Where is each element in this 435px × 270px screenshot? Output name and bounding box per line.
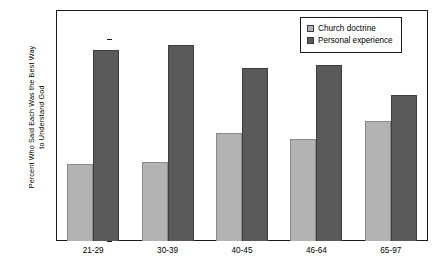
x-axis-tick-label: 65-97: [361, 246, 421, 255]
legend-swatch-icon: [307, 37, 314, 44]
legend-item-church-doctrine: Church doctrine: [307, 24, 393, 33]
y-axis-title: Percent Who Said Each Was the Best Way t…: [27, 2, 47, 232]
chart-legend: Church doctrine Personal experience: [300, 17, 402, 53]
x-axis-tick-label: 30-39: [138, 246, 198, 255]
x-axis-tick-label: 40-45: [212, 246, 272, 255]
legend-label: Church doctrine: [318, 24, 376, 33]
bar: [142, 162, 168, 241]
bar-group: [130, 10, 204, 241]
bar: [168, 45, 194, 241]
bar: [365, 121, 391, 241]
bar: [290, 139, 316, 242]
bar: [216, 133, 242, 241]
bar: [67, 164, 93, 241]
y-axis-tick-mark: [107, 241, 112, 242]
bar: [93, 50, 119, 241]
bar-chart: Percent Who Said Each Was the Best Way t…: [0, 0, 435, 270]
legend-label: Personal experience: [318, 36, 393, 45]
x-axis-tick-label: 46-64: [286, 246, 346, 255]
bar: [316, 65, 342, 241]
bar: [391, 95, 417, 241]
x-axis-tick-label: 21-29: [63, 246, 123, 255]
bar-group: [56, 10, 130, 241]
bar: [242, 68, 268, 241]
legend-item-personal-experience: Personal experience: [307, 36, 393, 45]
legend-swatch-icon: [307, 25, 314, 32]
bar-group: [205, 10, 279, 241]
